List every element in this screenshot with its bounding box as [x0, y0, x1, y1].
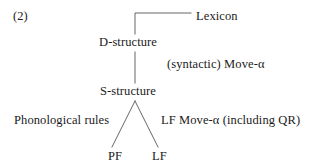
- edge-label-syntactic-move-alpha: (syntactic) Move-α: [167, 58, 265, 71]
- edge-sstructure-to-pf: [112, 101, 135, 147]
- diagram-connectors: [0, 0, 321, 168]
- edge-lexicon-to-dstructure: [135, 13, 191, 34]
- node-lexicon: Lexicon: [196, 10, 238, 23]
- edge-sstructure-to-lf: [135, 101, 158, 147]
- edge-label-phonological-rules: Phonological rules: [14, 114, 109, 127]
- node-s-structure: S-structure: [100, 85, 156, 98]
- node-lf: LF: [152, 150, 167, 163]
- example-number-label: (2): [13, 10, 28, 23]
- node-pf: PF: [108, 150, 122, 163]
- derivation-diagram: (2) Lexicon D-structure (syntactic) Move…: [0, 0, 321, 168]
- node-d-structure: D-structure: [99, 36, 157, 49]
- edge-label-lf-move-alpha: LF Move-α (including QR): [161, 114, 300, 127]
